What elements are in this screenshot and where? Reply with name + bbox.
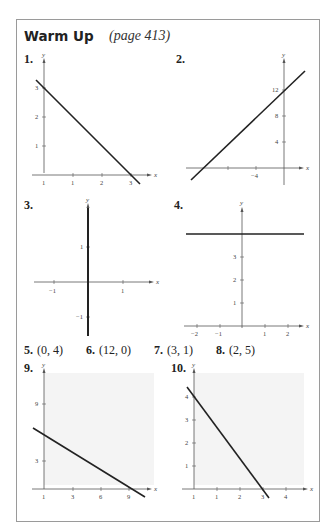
- answers-row: 5.(0, 4) 6.(12, 0) 7.(3, 1) 8.(2, 5): [24, 343, 275, 358]
- line-y-equals-x-plus-12: [191, 71, 305, 180]
- answer-7: 7.(3, 1): [154, 343, 193, 358]
- svg-text:9: 9: [127, 493, 130, 500]
- svg-text:x: x: [305, 322, 310, 330]
- page-reference: (page 413): [109, 28, 170, 44]
- svg-text:3: 3: [261, 493, 264, 500]
- svg-text:12: 12: [272, 86, 279, 93]
- svg-text:2: 2: [286, 330, 289, 337]
- svg-text:3: 3: [233, 253, 236, 260]
- svg-text:3: 3: [71, 493, 74, 500]
- svg-text:9: 9: [35, 400, 38, 407]
- line-y-equals-neg-x-plus-3: [36, 80, 140, 184]
- svg-text:−2: −2: [191, 330, 198, 337]
- svg-text:6: 6: [99, 493, 103, 500]
- svg-text:3: 3: [129, 179, 132, 186]
- svg-text:1: 1: [233, 299, 236, 306]
- svg-text:3: 3: [185, 416, 188, 423]
- graph-2: y x −4 4 8 12: [180, 55, 310, 190]
- svg-text:3: 3: [35, 457, 38, 464]
- svg-text:1: 1: [121, 287, 124, 294]
- svg-text:x: x: [155, 278, 160, 286]
- svg-text:1: 1: [215, 493, 218, 500]
- graph-3: y x −1 1 1 −1: [30, 200, 160, 340]
- answer-6: 6.(12, 0): [86, 343, 131, 358]
- section-title: Warm Up: [24, 28, 94, 44]
- graph-9: y x 3 6 9 1 3 9: [30, 365, 160, 505]
- svg-text:−4: −4: [251, 172, 259, 179]
- shaded-region: [194, 373, 304, 485]
- svg-text:1: 1: [71, 179, 74, 186]
- svg-text:1: 1: [185, 462, 188, 469]
- svg-text:4: 4: [185, 393, 189, 400]
- svg-text:x: x: [309, 485, 314, 493]
- svg-text:1: 1: [42, 179, 45, 186]
- svg-text:2: 2: [35, 113, 38, 120]
- graph-4: y x −2 −1 1 2 1 2 3: [180, 200, 315, 340]
- svg-text:2: 2: [238, 493, 241, 500]
- svg-text:1: 1: [42, 493, 45, 500]
- answer-8: 8.(2, 5): [216, 343, 255, 358]
- answer-5: 5.(0, 4): [24, 343, 63, 358]
- svg-text:2: 2: [185, 439, 188, 446]
- svg-text:y: y: [239, 199, 244, 207]
- graph-1: y x 1 2 3 1 1 2 3: [30, 55, 160, 190]
- svg-text:2: 2: [100, 179, 103, 186]
- svg-text:8: 8: [275, 112, 278, 119]
- svg-text:1: 1: [263, 330, 266, 337]
- svg-text:4: 4: [275, 138, 279, 145]
- svg-text:−1: −1: [215, 330, 222, 337]
- svg-text:1: 1: [35, 142, 38, 149]
- svg-text:−1: −1: [49, 287, 56, 294]
- svg-text:2: 2: [233, 276, 236, 283]
- svg-text:−1: −1: [76, 313, 83, 320]
- graph-10: y x 1 2 3 4 1 1 2 3 4: [180, 365, 315, 505]
- svg-text:x: x: [305, 164, 310, 172]
- svg-text:1: 1: [80, 243, 83, 250]
- svg-text:x: x: [153, 485, 158, 493]
- svg-text:4: 4: [284, 493, 288, 500]
- x-axis-label: x: [153, 171, 158, 179]
- svg-text:3: 3: [35, 84, 38, 91]
- svg-text:1: 1: [192, 493, 195, 500]
